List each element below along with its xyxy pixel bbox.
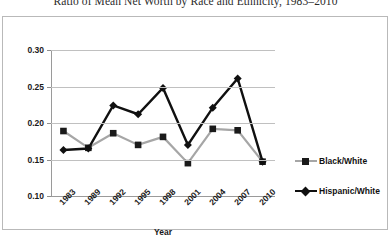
figure-frame: 0.300.250.200.150.1019831989199219951998… xyxy=(2,16,388,230)
y-axis-label: 0.30 xyxy=(27,45,44,55)
legend-label: Hispanic/White xyxy=(319,186,380,196)
plot-area: 0.300.250.200.150.1019831989199219951998… xyxy=(51,50,275,196)
gridline xyxy=(51,87,275,88)
gridline xyxy=(51,160,275,161)
legend-square-marker-icon xyxy=(295,156,317,166)
y-axis-tick xyxy=(47,123,51,124)
data-point-marker xyxy=(234,127,241,134)
y-axis-label: 0.15 xyxy=(27,155,44,165)
data-point-marker xyxy=(135,142,142,149)
legend-item[interactable]: Hispanic/White xyxy=(295,185,389,197)
y-axis-tick xyxy=(47,87,51,88)
data-point-marker xyxy=(209,126,216,133)
gridline xyxy=(51,50,275,51)
data-point-marker xyxy=(59,146,67,154)
y-axis-label: 0.10 xyxy=(27,191,44,201)
y-axis-label: 0.20 xyxy=(27,118,44,128)
gridline xyxy=(51,123,275,124)
y-axis-label: 0.25 xyxy=(27,82,44,92)
chart-legend: Black/WhiteHispanic/White xyxy=(295,155,389,215)
chart-title: Ratio of Mean Net Worth by Race and Ethn… xyxy=(0,0,391,7)
data-point-marker xyxy=(185,160,192,167)
data-point-marker xyxy=(110,130,117,137)
data-point-marker xyxy=(160,134,167,141)
legend-diamond-marker-icon xyxy=(295,186,317,196)
y-axis-tick xyxy=(47,160,51,161)
legend-item[interactable]: Black/White xyxy=(295,155,389,167)
x-axis-title: Year xyxy=(51,227,275,237)
y-axis-tick xyxy=(47,196,51,197)
legend-label: Black/White xyxy=(319,156,367,166)
y-axis-tick xyxy=(47,50,51,51)
data-point-marker xyxy=(60,128,67,135)
